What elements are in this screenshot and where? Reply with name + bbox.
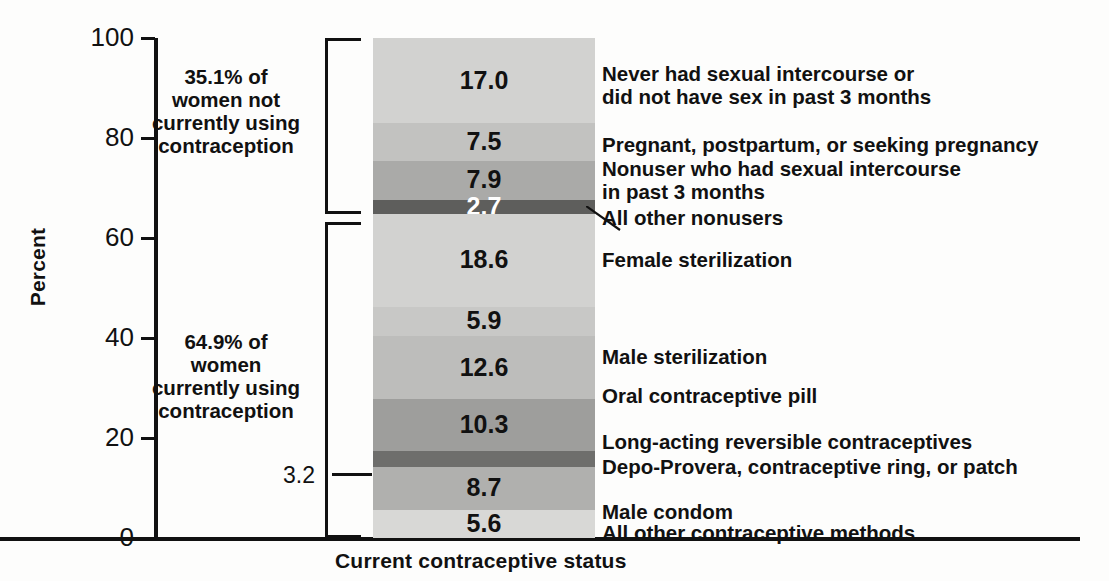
series-label-4: Female sterilization	[602, 248, 792, 271]
y-tick-label-100: 100	[88, 24, 134, 50]
series-label-10: All other contraceptive methods	[602, 521, 915, 544]
bar-value-6: 12.6	[373, 355, 595, 380]
series-label-2: Nonuser who had sexual intercourse in pa…	[602, 157, 961, 203]
y-tick-label-0: 0	[88, 524, 134, 550]
y-tick-label-60: 60	[88, 224, 134, 250]
bracket-not-using	[325, 38, 361, 214]
y-tick-label-80: 80	[88, 124, 134, 150]
bar-value-10: 5.6	[373, 511, 595, 536]
series-label-7: Long-acting reversible contraceptives	[602, 430, 972, 453]
x-axis-title: Current contraceptive status	[335, 549, 627, 573]
bar-value-9: 8.7	[373, 475, 595, 500]
y-tick-60	[141, 237, 155, 240]
depo-value-callout: 3.2	[283, 462, 315, 489]
bar-value-5: 5.9	[373, 308, 595, 333]
bar-value-4: 18.6	[373, 247, 595, 272]
y-axis-title: Percent	[26, 207, 50, 327]
series-label-1: Pregnant, postpartum, or seeking pregnan…	[602, 133, 1038, 156]
series-label-8: Depo-Provera, contraceptive ring, or pat…	[602, 455, 1018, 478]
bar-value-0: 17.0	[373, 68, 595, 93]
y-tick-20	[141, 437, 155, 440]
group-note-currently-using: 64.9% of women currently using contracep…	[133, 330, 319, 422]
y-tick-label-20: 20	[88, 424, 134, 450]
stacked-bar-chart: 100806040200 Percent Current contracepti…	[0, 0, 1109, 581]
series-label-5: Male sterilization	[602, 345, 767, 368]
series-label-9: Male condom	[602, 500, 733, 523]
bar-value-7: 10.3	[373, 412, 595, 437]
bracket-currently-using	[325, 222, 361, 538]
bar-stack: 17.07.57.92.718.65.912.610.38.75.6	[373, 38, 595, 538]
y-tick-0	[141, 537, 155, 540]
series-label-3: All other nonusers	[602, 206, 783, 229]
series-label-6: Oral contraceptive pill	[602, 384, 817, 407]
bar-value-1: 7.5	[373, 129, 595, 154]
series-label-0: Never had sexual intercourse or did not …	[602, 62, 931, 108]
y-tick-label-40: 40	[88, 324, 134, 350]
depo-callout-leader-line	[332, 473, 372, 476]
y-tick-100	[141, 37, 155, 40]
group-note-not-using: 35.1% of women not currently using contr…	[133, 65, 319, 157]
bar-value-2: 7.9	[373, 167, 595, 192]
bar-segment-8	[373, 451, 595, 467]
